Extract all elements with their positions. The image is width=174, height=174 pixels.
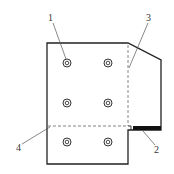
label-3: 3	[146, 12, 151, 23]
leader-4	[22, 127, 50, 144]
label-1: 1	[48, 12, 53, 23]
bolt-hole	[104, 59, 112, 67]
leader-2	[143, 131, 155, 145]
bolt-hole	[63, 59, 71, 67]
bolt-hole	[63, 138, 71, 146]
bolt-hole	[63, 99, 71, 107]
bolt-hole	[104, 99, 112, 107]
label-4: 4	[16, 142, 21, 153]
label-2: 2	[154, 144, 159, 155]
black-strip	[133, 126, 161, 130]
plate-diagram: 1 2 3 4	[0, 0, 174, 174]
diagram-canvas: 1 2 3 4	[0, 0, 174, 174]
bolt-hole	[104, 138, 112, 146]
bolt-holes	[63, 59, 112, 146]
leader-1	[53, 23, 66, 59]
